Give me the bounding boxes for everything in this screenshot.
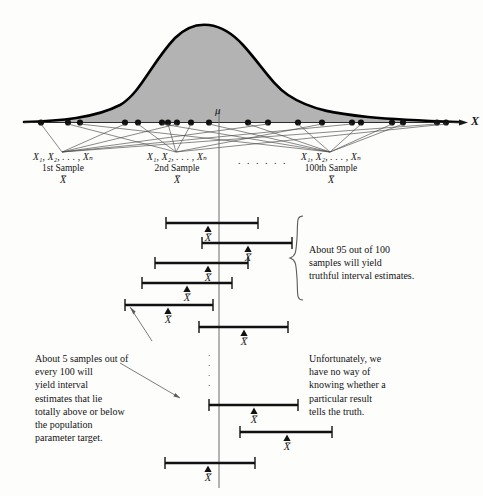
sample-1-ordinal: 1st Sample [8, 163, 118, 174]
population-curve-fill [24, 25, 459, 122]
interval-8-mean-label: X̅ [278, 441, 296, 452]
sample-1-mean: X̅ [8, 174, 118, 186]
interval-9-mean-label: X̅ [199, 472, 217, 483]
sample-100-mean: X̅ [276, 174, 386, 186]
sample-2-variables: X₁, X₂, . . . , Xₙ [122, 152, 232, 163]
sample-fan-lines [41, 124, 446, 152]
sample-2-ordinal: 2nd Sample [122, 163, 232, 174]
interval-6-mean-label: X̅ [235, 336, 253, 347]
right-note-line-1: Unfortunately, we [309, 352, 469, 365]
right-note-line-3: knowing whether a [309, 378, 469, 391]
sample-2-mean: X̅ [122, 174, 232, 186]
interval-3-mean-label: X̅ [199, 272, 217, 283]
brace-95-percent [290, 216, 303, 300]
right-note-line-2: have no way of [309, 365, 469, 378]
intervals-vertical-dots: . . . . [203, 348, 215, 388]
left-note-line-4: estimates that lie [35, 392, 185, 405]
sample-100-ordinal: 100th Sample [276, 163, 386, 174]
brace-note-line-2: samples will yield [309, 256, 477, 269]
left-note: About 5 samples out of every 100 will yi… [35, 352, 185, 444]
left-note-line-1: About 5 samples out of [35, 352, 185, 365]
sample-1-variables: X₁, X₂, . . . , Xₙ [8, 152, 118, 163]
vdot-4: . [203, 378, 215, 388]
left-note-line-2: every 100 will [35, 365, 185, 378]
right-note: Unfortunately, we have no way of knowing… [309, 352, 469, 418]
brace-note-line-1: About 95 out of 100 [309, 243, 477, 256]
interval-5-mean-label: X̅ [159, 314, 177, 325]
sampling-distribution-figure: μ X X₁, X₂, . . . , Xₙ 1st Sample X̅ X₁,… [0, 0, 483, 496]
sample-group-2: X₁, X₂, . . . , Xₙ 2nd Sample X̅ [122, 152, 232, 186]
x-axis-label: X [471, 114, 479, 129]
right-note-line-4: particular result [309, 392, 469, 405]
mu-label: μ [215, 104, 221, 116]
brace-note: About 95 out of 100 samples will yield t… [309, 243, 477, 283]
vdot-2: . [203, 358, 215, 368]
left-note-line-3: yield interval [35, 378, 185, 391]
vdot-1: . [203, 348, 215, 358]
interval-1-mean-label: X̅ [199, 232, 217, 243]
interval-2-mean-label: X̅ [239, 252, 257, 263]
left-note-line-7: parameter target. [35, 431, 185, 444]
sample-100-variables: X₁, X₂, . . . , Xₙ [276, 152, 386, 163]
right-note-line-5: tells the truth. [309, 405, 469, 418]
brace-note-line-3: truthful interval estimates. [309, 269, 477, 282]
interval-4-mean-label: X̅ [178, 292, 196, 303]
x-axis-arrow-icon [459, 120, 468, 126]
left-note-line-5: totally above or below [35, 405, 185, 418]
sample-group-1: X₁, X₂, . . . , Xₙ 1st Sample X̅ [8, 152, 118, 186]
vdot-3: . [203, 368, 215, 378]
interval-7-mean-label: X̅ [245, 414, 263, 425]
sample-group-100: X₁, X₂, . . . , Xₙ 100th Sample X̅ [276, 152, 386, 186]
left-note-line-6: the population [35, 418, 185, 431]
